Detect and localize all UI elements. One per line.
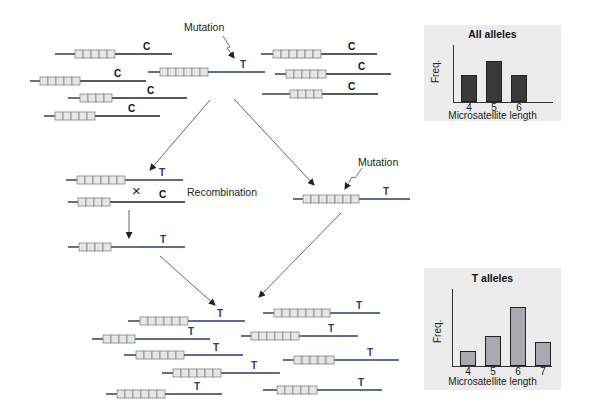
chromosome: C [275, 61, 391, 78]
microsatellite-repeats [117, 390, 165, 398]
chromosome: T [106, 381, 222, 398]
y-axis-label: Freq. [432, 320, 443, 343]
allele-label: C [348, 41, 355, 52]
microsatellite-repeats [79, 243, 111, 251]
bar-5 [485, 336, 501, 366]
allele-label: C [114, 68, 121, 79]
chromosome: C [55, 41, 172, 58]
allele-label: T [194, 381, 200, 392]
chart-title: All alleles [424, 28, 561, 40]
bar-5 [486, 61, 502, 102]
allele-label: C [143, 41, 150, 52]
chromosome: T [124, 342, 243, 359]
chromosome: T [92, 326, 210, 343]
microsatellite-repeats [103, 335, 135, 343]
allele-label: T [383, 186, 389, 197]
arrow-to-population-left [160, 256, 215, 305]
chromosome: T [241, 323, 358, 340]
mutation-lightning-icon-top [223, 36, 234, 58]
crossover-mark: × [132, 182, 141, 199]
chromosome: T [148, 59, 265, 76]
chromosome: T [162, 360, 280, 377]
chromosome: T [68, 234, 185, 251]
microsatellite-repeats [160, 68, 208, 76]
allele-label: T [328, 323, 334, 334]
allele-label: T [159, 167, 165, 178]
allele-label: T [367, 347, 373, 358]
recombination-label: Recombination [187, 186, 257, 198]
x-axis-label: Microsatellite length [424, 376, 561, 387]
microsatellite-repeats [277, 386, 317, 394]
microsatellite-repeats [78, 198, 110, 206]
x-axis-label: Microsatellite length [424, 110, 561, 121]
chromosome: C [30, 68, 146, 85]
chart-all-alleles: All alleles Freq. 456 Microsatellite len… [424, 25, 561, 121]
microsatellite-repeats [290, 90, 322, 98]
allele-label: T [251, 360, 257, 371]
bars [453, 45, 553, 102]
microsatellite-repeats [274, 309, 330, 317]
bar-7 [535, 342, 551, 366]
microsatellite-repeats [77, 176, 125, 184]
allele-label: C [358, 61, 365, 72]
microsatellite-repeats [286, 70, 326, 78]
allele-label: C [348, 81, 355, 92]
allele-label: T [160, 234, 166, 245]
chromosome: T [283, 347, 399, 364]
arrow-to-recombination [150, 100, 210, 170]
chromosome: C [68, 189, 185, 206]
bar-6 [510, 307, 526, 366]
bars [452, 289, 552, 366]
allele-label: T [240, 59, 246, 70]
allele-label: T [188, 326, 194, 337]
microsatellite-repeats [75, 50, 115, 58]
mutation-label-top: Mutation [184, 21, 224, 33]
chromosome: C [44, 103, 160, 120]
chromosome: T [263, 377, 382, 394]
chromosomes: CCCCTCCCTCTTTTTTTTTTT [30, 41, 410, 398]
microsatellite-repeats [303, 195, 359, 203]
chromosome: C [261, 41, 377, 58]
microsatellite-repeats [294, 356, 334, 364]
allele-label: C [147, 85, 154, 96]
bar-4 [460, 351, 476, 366]
microsatellite-repeats [273, 50, 321, 58]
microsatellite-repeats [40, 77, 80, 85]
allele-label: T [217, 308, 223, 319]
chromosome: T [263, 300, 380, 317]
arrow-to-population-right [259, 213, 341, 297]
allele-label: C [159, 189, 166, 200]
microsatellite-repeats [140, 317, 188, 325]
chromosome: T [66, 167, 183, 184]
bar-4 [461, 75, 477, 102]
microsatellite-repeats [80, 94, 112, 102]
arrow-to-mutation-lineage [234, 99, 314, 185]
microsatellite-repeats [136, 351, 184, 359]
chromosome: C [68, 85, 187, 102]
allele-label: T [358, 377, 364, 388]
allele-label: C [128, 103, 135, 114]
chart-t-alleles: T alleles Freq. 4567 Microsatellite leng… [424, 268, 561, 390]
allele-label: T [213, 342, 219, 353]
y-axis-label: Freq. [430, 60, 441, 83]
mutation-lightning-icon-right [345, 168, 362, 189]
bar-6 [511, 75, 527, 102]
microsatellite-repeats [55, 112, 95, 120]
chromosome: T [128, 308, 245, 325]
microsatellite-repeats [251, 332, 299, 340]
mutation-label-right: Mutation [358, 156, 398, 168]
chromosome: C [262, 81, 378, 98]
microsatellite-repeats [173, 369, 221, 377]
chromosome: T [293, 186, 410, 203]
chart-title: T alleles [424, 272, 561, 284]
allele-label: T [356, 300, 362, 311]
